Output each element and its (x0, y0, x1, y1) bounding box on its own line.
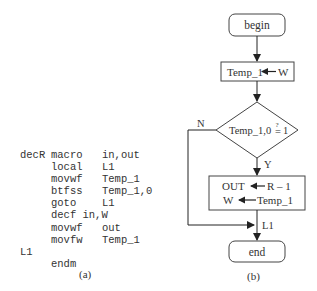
assign2-line2-right: Temp_1 (257, 194, 293, 206)
decision-right: 1 (283, 125, 288, 136)
caption-b: (b) (247, 270, 260, 283)
begin-label: begin (244, 19, 270, 32)
assign1-right: W (278, 66, 289, 78)
flowchart: begin Temp_1 W Temp_1,0 = ? 1 N Y OUT R … (0, 0, 317, 291)
join-label: L1 (262, 220, 274, 231)
no-label: N (197, 118, 205, 129)
yes-label: Y (264, 159, 272, 170)
assign2-line2-left: W (223, 194, 234, 206)
assign1-left: Temp_1 (227, 66, 263, 78)
decision-left: Temp_1,0 (229, 125, 271, 136)
end-label: end (249, 246, 266, 258)
assign2-line1-left: OUT (222, 180, 245, 192)
assign2-line1-right: R – 1 (267, 180, 291, 192)
decision-question: ? (276, 121, 279, 129)
